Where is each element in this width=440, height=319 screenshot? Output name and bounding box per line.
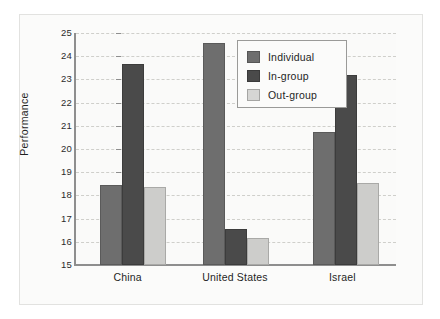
y-tick-mark	[116, 126, 121, 127]
legend-item: Individual	[247, 48, 346, 66]
y-tick-mark	[116, 149, 121, 150]
y-axis-ticks: 1516171819202122232425	[46, 0, 72, 319]
legend-label: Individual	[268, 51, 314, 63]
gridline	[76, 56, 396, 57]
y-tick-mark	[116, 79, 121, 80]
legend-swatch-icon	[247, 51, 260, 63]
bar-china-individual	[100, 185, 122, 265]
bar-united-states-individual	[203, 43, 225, 265]
chart-figure: 1516171819202122232425 Performance China…	[0, 0, 440, 319]
bar-united-states-out-group	[247, 238, 269, 265]
y-tick-label: 24	[50, 50, 72, 61]
y-axis-line	[74, 33, 76, 266]
y-tick-label: 16	[50, 236, 72, 247]
y-tick-label: 21	[50, 120, 72, 131]
legend-label: In-group	[268, 70, 309, 82]
x-tick-label: Israel	[289, 271, 396, 283]
x-tick-label: China	[74, 271, 181, 283]
legend-label: Out-group	[268, 89, 317, 101]
y-tick-mark	[116, 33, 121, 34]
y-tick-mark	[116, 56, 121, 57]
legend-item: Out-group	[247, 86, 346, 104]
legend-item: In-group	[247, 67, 346, 85]
y-tick-label: 15	[50, 259, 72, 270]
y-tick-mark	[116, 172, 121, 173]
y-tick-label: 25	[50, 27, 72, 38]
y-axis-title: Performance	[18, 54, 30, 194]
y-tick-label: 20	[50, 143, 72, 154]
chart-legend: IndividualIn-groupOut-group	[237, 40, 347, 108]
x-tick-label: United States	[181, 271, 288, 283]
y-tick-label: 18	[50, 189, 72, 200]
y-tick-mark	[116, 103, 121, 104]
gridline	[76, 33, 396, 34]
y-tick-mark	[116, 265, 121, 266]
bar-israel-out-group	[357, 183, 379, 265]
y-tick-label: 22	[50, 97, 72, 108]
y-tick-label: 23	[50, 73, 72, 84]
legend-swatch-icon	[247, 70, 260, 82]
y-tick-label: 17	[50, 213, 72, 224]
bar-china-out-group	[144, 187, 166, 265]
bar-china-in-group	[122, 64, 144, 265]
y-tick-label: 19	[50, 166, 72, 177]
legend-swatch-icon	[247, 89, 260, 101]
bar-united-states-in-group	[225, 229, 247, 265]
bar-israel-individual	[313, 132, 335, 265]
